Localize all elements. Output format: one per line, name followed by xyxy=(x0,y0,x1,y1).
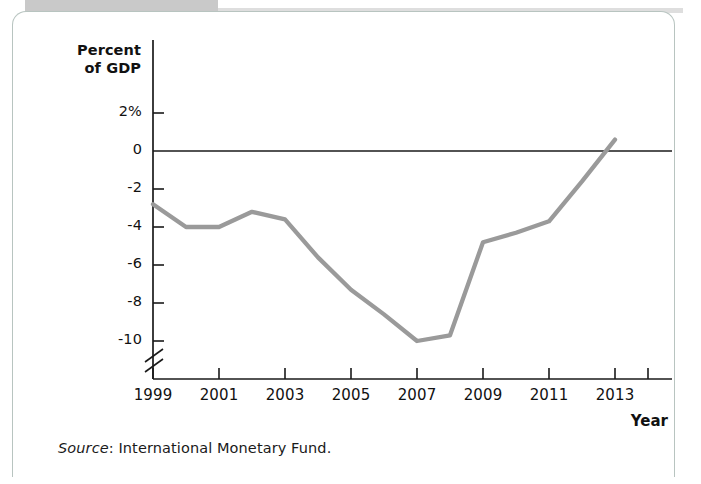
figure-card xyxy=(12,11,675,477)
x-tick-label: 1999 xyxy=(124,386,182,404)
x-tick-label: 2005 xyxy=(322,386,380,404)
y-axis-title-line2: of GDP xyxy=(52,59,141,77)
source-text: International Monetary Fund. xyxy=(118,440,331,456)
y-tick-label: -2 xyxy=(80,179,142,195)
y-tick-label: 0 xyxy=(80,141,142,157)
x-tick-label: 2007 xyxy=(388,386,446,404)
y-axis-title-line1: Percent xyxy=(52,41,141,59)
source-label: Source xyxy=(58,440,109,456)
x-tick-label: 2011 xyxy=(520,386,578,404)
source-note: Source: International Monetary Fund. xyxy=(58,440,331,456)
figure-page: Percent of GDP 2%0-2-4-6-8-10 1999200120… xyxy=(0,0,701,484)
y-axis-title: Percent of GDP xyxy=(52,41,141,77)
y-tick-label: 2% xyxy=(80,103,142,119)
x-tick-label: 2013 xyxy=(586,386,644,404)
y-tick-label: -6 xyxy=(80,255,142,271)
x-tick-label: 2001 xyxy=(190,386,248,404)
y-tick-label: -4 xyxy=(80,217,142,233)
x-tick-label: 2003 xyxy=(256,386,314,404)
x-tick-label: 2009 xyxy=(454,386,512,404)
source-separator: : xyxy=(109,440,119,456)
y-tick-label: -8 xyxy=(80,293,142,309)
y-tick-label: -10 xyxy=(80,331,142,347)
x-axis-title: Year xyxy=(631,412,668,430)
